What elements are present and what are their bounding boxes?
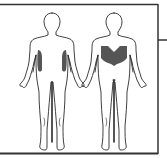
back-body-figure <box>82 13 146 150</box>
body-map-diagram <box>0 0 167 158</box>
right-oblique-highlight <box>62 50 67 72</box>
front-body-figure <box>20 13 84 150</box>
lats-highlight <box>101 46 127 66</box>
left-oblique-highlight <box>37 50 42 72</box>
